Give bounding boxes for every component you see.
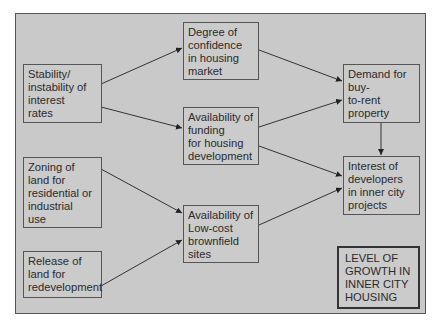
- node-stability: Stability/ instability of interest rates: [23, 64, 102, 123]
- node-zoning: Zoning of land for residential or indust…: [23, 157, 102, 228]
- node-demand: Demand for buy- to-rent property: [343, 64, 420, 123]
- node-funding: Availability of funding for housing deve…: [183, 107, 259, 165]
- node-release: Release of land for redevelopment: [23, 251, 102, 298]
- node-confidence: Degree of confidence in housing market: [183, 22, 259, 80]
- node-interest: Interest of developers in inner city pro…: [343, 156, 420, 215]
- node-brownfield: Availability of Low-cost brownfield site…: [183, 205, 259, 263]
- node-growth: LEVEL OF GROWTH IN INNER CITY HOUSING: [337, 246, 420, 309]
